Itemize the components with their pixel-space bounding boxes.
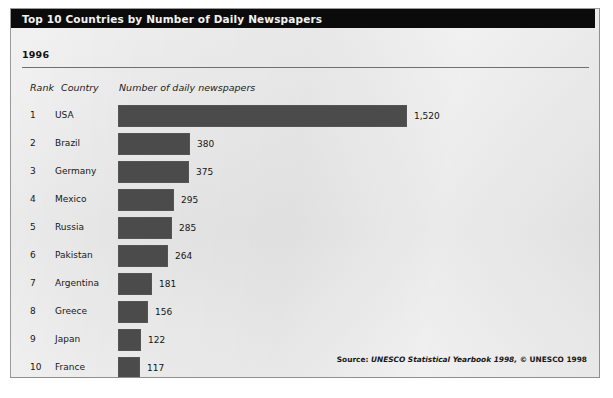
page: Top 10 Countries by Number of Daily News… — [0, 0, 613, 398]
page-title: Top 10 Countries by Number of Daily News… — [11, 13, 322, 25]
bar-value-label: 375 — [196, 167, 213, 177]
bar-track: 181 — [118, 273, 593, 295]
row-country: Mexico — [55, 194, 86, 204]
table-row: 4Mexico295 — [11, 187, 599, 215]
bar-track: 122 — [118, 329, 593, 351]
row-country: Russia — [55, 222, 84, 232]
bar-track: 156 — [118, 301, 593, 323]
table-row: 5Russia285 — [11, 215, 599, 243]
year-label: 1996 — [22, 49, 49, 60]
figure-card: Top 10 Countries by Number of Daily News… — [10, 8, 600, 378]
table-row: 6Pakistan264 — [11, 243, 599, 271]
column-header-value: Number of daily newspapers — [119, 82, 255, 93]
bar — [118, 245, 168, 267]
bar — [118, 329, 141, 351]
bar-value-label: 156 — [155, 307, 172, 317]
table-row: 9Japan122 — [11, 327, 599, 355]
bar-value-label: 181 — [159, 279, 176, 289]
bar-value-label: 1,520 — [414, 111, 440, 121]
bar-track: 1,520 — [118, 105, 593, 127]
row-rank: 2 — [30, 138, 36, 148]
table-row: 3Germany375 — [11, 159, 599, 187]
header-divider — [22, 67, 589, 68]
bar-value-label: 380 — [197, 139, 214, 149]
row-rank: 1 — [30, 110, 36, 120]
table-row: 8Greece156 — [11, 299, 599, 327]
row-rank: 5 — [30, 222, 36, 232]
source-copyright: © UNESCO 1998 — [520, 355, 587, 364]
table-row: 2Brazil380 — [11, 131, 599, 159]
bar-track: 375 — [118, 161, 593, 183]
bar — [118, 161, 189, 183]
source-label: Source: — [337, 355, 371, 364]
row-country: Pakistan — [55, 250, 93, 260]
bar-chart-rows: 1USA1,5202Brazil3803Germany3754Mexico295… — [11, 103, 599, 378]
row-rank: 3 — [30, 166, 36, 176]
table-row: 7Argentina181 — [11, 271, 599, 299]
row-country: France — [55, 362, 85, 372]
source-title: UNESCO Statistical Yearbook 1998, — [371, 355, 520, 364]
column-header-rank: Rank — [30, 82, 54, 93]
row-rank: 6 — [30, 250, 36, 260]
column-header-country: Country — [61, 82, 99, 93]
bar — [118, 273, 152, 295]
row-country: USA — [55, 110, 74, 120]
bar-value-label: 117 — [147, 363, 164, 373]
figure-title-bar: Top 10 Countries by Number of Daily News… — [11, 9, 595, 28]
bar-track: 380 — [118, 133, 593, 155]
row-country: Greece — [55, 306, 87, 316]
bar-value-label: 122 — [148, 335, 165, 345]
row-country: Brazil — [55, 138, 80, 148]
bar — [118, 133, 190, 155]
row-country: Germany — [55, 166, 96, 176]
row-rank: 10 — [30, 362, 41, 372]
bar — [118, 301, 148, 323]
bar-track: 285 — [118, 217, 593, 239]
bar-track: 295 — [118, 189, 593, 211]
bar — [118, 357, 140, 378]
bar-value-label: 264 — [175, 251, 192, 261]
row-country: Japan — [55, 334, 80, 344]
source-note: Source: UNESCO Statistical Yearbook 1998… — [337, 355, 587, 364]
bar — [118, 217, 172, 239]
row-country: Argentina — [55, 278, 99, 288]
bar — [118, 189, 174, 211]
bar — [118, 105, 407, 127]
column-headers: Rank Country Number of daily newspapers — [11, 82, 599, 96]
row-rank: 4 — [30, 194, 36, 204]
bar-value-label: 285 — [179, 223, 196, 233]
bar-value-label: 295 — [181, 195, 198, 205]
row-rank: 8 — [30, 306, 36, 316]
row-rank: 7 — [30, 278, 36, 288]
row-rank: 9 — [30, 334, 36, 344]
bar-track: 264 — [118, 245, 593, 267]
table-row: 1USA1,520 — [11, 103, 599, 131]
